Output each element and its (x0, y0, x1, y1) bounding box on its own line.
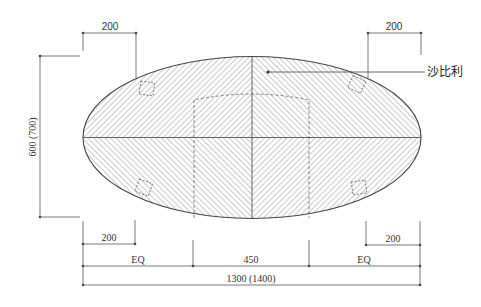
dim-overall-width: 1300 (1400) (226, 273, 275, 285)
dim-height: 600 (700) (27, 117, 39, 156)
hatch-top-left (83, 56, 252, 138)
dim-top-left: 200 (102, 21, 119, 32)
dim-segment-middle: 450 (244, 254, 259, 265)
dim-bottom-right: 200 (386, 233, 401, 244)
dim-top-right: 200 (386, 21, 403, 32)
hatch-top-right (252, 56, 421, 138)
dim-bottom-left: 200 (102, 232, 117, 243)
dim-segment-right: EQ (357, 254, 371, 265)
dim-segment-left: EQ (131, 254, 145, 265)
material-label: 沙比利 (427, 65, 463, 79)
drawing-canvas: 沙比利 (0, 0, 481, 307)
